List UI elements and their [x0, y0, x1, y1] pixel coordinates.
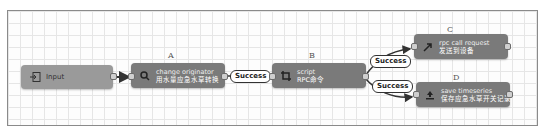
node-name: change originator: [156, 68, 219, 76]
input-port-d[interactable]: [413, 91, 420, 98]
node-name: save timeseries: [441, 87, 511, 95]
node-tag-d: D: [453, 73, 459, 82]
node-rpc-call-request[interactable]: rpc call request 发送到设备: [414, 34, 508, 59]
edge-label-b-c[interactable]: Success: [370, 55, 411, 68]
output-port-input[interactable]: [110, 73, 117, 80]
transform-icon: [280, 70, 292, 82]
node-save-timeseries[interactable]: save timeseries 保存应急水草开关记录: [416, 82, 510, 107]
node-input[interactable]: Input: [21, 65, 113, 89]
node-description: 用水量应急水草转换: [156, 76, 219, 84]
input-port-a[interactable]: [128, 73, 135, 80]
output-port-d[interactable]: [506, 91, 513, 98]
node-script[interactable]: script RPC命令: [272, 63, 366, 88]
node-change-originator[interactable]: change originator 用水量应急水草转换: [131, 63, 225, 88]
output-port-c[interactable]: [504, 43, 511, 50]
input-port-b[interactable]: [269, 73, 276, 80]
node-tag-c: C: [447, 25, 453, 34]
rule-chain-canvas[interactable]: Input A change originator 用水量应急水草转换 Succ…: [7, 10, 538, 126]
node-description: 发送到设备: [439, 47, 489, 55]
upload-icon: [424, 89, 436, 101]
node-name: rpc call request: [439, 39, 489, 47]
node-name: Input: [46, 73, 64, 81]
edge-label-b-d[interactable]: Success: [372, 80, 413, 93]
node-description: RPC命令: [297, 76, 324, 84]
node-description: 保存应急水草开关记录: [441, 95, 511, 103]
output-port-a[interactable]: [221, 73, 228, 80]
node-name: script: [297, 68, 324, 76]
search-icon: [139, 70, 151, 82]
node-tag-b: B: [309, 51, 315, 60]
input-port-c[interactable]: [411, 43, 418, 50]
edge-label-a-b[interactable]: Success: [230, 70, 271, 83]
arrow-up-right-icon: [422, 41, 434, 53]
node-tag-a: A: [168, 51, 174, 60]
output-port-b[interactable]: [362, 73, 369, 80]
input-icon: [29, 71, 41, 83]
